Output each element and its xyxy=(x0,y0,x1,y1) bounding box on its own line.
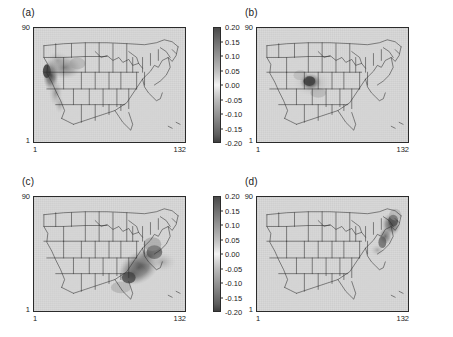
panel-c-y-bottom-label: 1 xyxy=(14,305,30,314)
colorbar-bottom-tickmark-2 xyxy=(221,225,223,226)
colorbar-bottom-tick-5: -0.05 xyxy=(225,264,242,273)
colorbar-top-tick-7: -0.15 xyxy=(225,124,242,133)
panel-c-x-left-label: 1 xyxy=(33,314,53,323)
panel-d-label: (d) xyxy=(245,176,258,187)
panel-d-x-right-label: 132 xyxy=(383,314,409,323)
panel-a-x-right-label: 132 xyxy=(160,145,186,154)
colorbar-bottom-tickmark-7 xyxy=(221,297,223,298)
colorbar-bottom-tick-3: 0.05 xyxy=(225,235,240,244)
colorbar-bottom-tickmark-1 xyxy=(221,210,223,211)
panel-c-x-right-label: 132 xyxy=(160,314,186,323)
colorbar-top-tickmark-2 xyxy=(221,56,223,57)
figure-panel-grid: (a) 90 1 xyxy=(0,0,453,337)
colorbar-top-tickmark-4 xyxy=(221,85,223,86)
panel-d-map xyxy=(257,197,408,311)
colorbar-top-tick-3: 0.05 xyxy=(225,66,240,75)
panel-b-plot-area xyxy=(256,27,409,143)
panel-c-y-top-label: 90 xyxy=(14,192,30,201)
colorbar-top-tickmark-1 xyxy=(221,41,223,42)
panel-d-x-left-label: 1 xyxy=(256,314,276,323)
colorbar-bottom-tickmark-4 xyxy=(221,254,223,255)
panel-c-map xyxy=(34,197,185,311)
colorbar-top-tick-1: 0.15 xyxy=(225,37,240,46)
panel-a-y-top-label: 90 xyxy=(14,23,30,32)
panel-a-map xyxy=(34,28,185,142)
panel-c-label: (c) xyxy=(22,176,34,187)
colorbar-top-tick-4: 0.00 xyxy=(225,81,240,90)
colorbar-bottom-tickmark-3 xyxy=(221,239,223,240)
colorbar-bottom-tick-4: 0.00 xyxy=(225,250,240,259)
panel-b-y-bottom-label: 1 xyxy=(237,136,253,145)
colorbar-top-tick-6: -0.10 xyxy=(225,110,242,119)
panel-a-y-bottom-label: 1 xyxy=(14,136,30,145)
panel-d-y-top-label: 90 xyxy=(237,192,253,201)
colorbar-top-tick-5: -0.05 xyxy=(225,95,242,104)
colorbar-top-tick-2: 0.10 xyxy=(225,52,240,61)
panel-a-x-left-label: 1 xyxy=(33,145,53,154)
panel-b-y-top-label: 90 xyxy=(237,23,253,32)
colorbar-top-tickmark-3 xyxy=(221,70,223,71)
colorbar-bottom-tick-2: 0.10 xyxy=(225,221,240,230)
panel-b-map xyxy=(257,28,408,142)
colorbar-top-tickmark-5 xyxy=(221,99,223,100)
panel-c-plot-area xyxy=(33,196,186,312)
colorbar-bottom-tickmark-6 xyxy=(221,283,223,284)
panel-b-label: (b) xyxy=(245,7,258,18)
panel-d-plot-area xyxy=(256,196,409,312)
colorbar-top-tickmark-7 xyxy=(221,128,223,129)
panel-a-plot-area xyxy=(33,27,186,143)
panel-b-x-right-label: 132 xyxy=(383,145,409,154)
panel-a-label: (a) xyxy=(22,7,35,18)
colorbar-bottom-tick-6: -0.10 xyxy=(225,279,242,288)
colorbar-bottom-tick-7: -0.15 xyxy=(225,293,242,302)
colorbar-bottom-tickmark-5 xyxy=(221,268,223,269)
colorbar-bottom-tick-1: 0.15 xyxy=(225,206,240,215)
panel-d-y-bottom-label: 1 xyxy=(237,305,253,314)
panel-b-x-left-label: 1 xyxy=(256,145,276,154)
colorbar-top-tickmark-6 xyxy=(221,114,223,115)
